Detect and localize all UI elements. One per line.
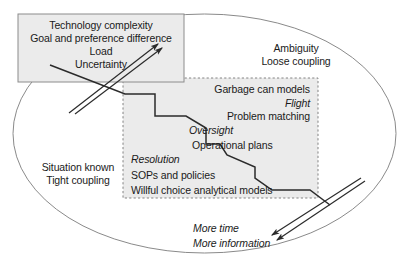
label-ambiguity: Ambiguity	[273, 42, 318, 55]
label-garbage-can-models: Garbage can models	[214, 83, 310, 96]
label-problem-matching: Problem matching	[227, 110, 310, 123]
label-tight-coupling: Tight coupling	[46, 174, 110, 187]
label-loose-coupling: Loose coupling	[261, 55, 330, 68]
diagram-canvas: Technology complexity Goal and preferenc…	[0, 0, 411, 267]
label-situation-known: Situation known	[42, 161, 115, 174]
label-more-time: More time	[193, 222, 239, 235]
label-goal-and-preference-difference: Goal and preference difference	[30, 32, 172, 45]
label-operational-plans: Operational plans	[192, 139, 273, 152]
label-resolution: Resolution	[131, 153, 180, 166]
label-technology-complexity: Technology complexity	[49, 19, 153, 32]
label-load: Load	[90, 45, 113, 58]
label-sops-and-policies: SOPs and policies	[131, 169, 215, 182]
label-willful-choice-analytical-models: Willful choice analytical models	[131, 184, 273, 197]
label-more-information: More information	[193, 237, 270, 250]
label-oversight: Oversight	[189, 124, 233, 137]
label-flight: Flight	[285, 97, 310, 110]
label-uncertainty: Uncertainty	[75, 58, 127, 71]
